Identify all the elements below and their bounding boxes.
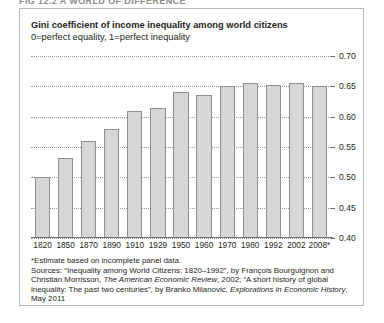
gridline-0.40 [31,238,331,239]
y-tick-label: 0.65 [339,81,356,91]
bar-2002 [289,56,304,238]
bar-rect [81,141,96,238]
bar-rect [312,86,327,238]
bar-1910 [127,56,142,238]
chart-subtitle: 0=perfect equality, 1=perfect inequality [31,31,190,43]
sources-line2-pre: Morrisson, [64,275,103,284]
figure-root: FIG 12.2 A WORLD OF DIFFERENCE Gini coef… [0,0,384,323]
x-tick-label: 1850 [56,240,74,250]
bar-rect [58,158,73,238]
y-tick-mark [331,208,335,209]
plot-area: 0.400.450.500.550.600.650.70 [31,56,331,238]
x-tick-label: 2008* [309,240,331,250]
x-tick-label: 1950 [172,240,190,250]
y-tick-label: 0.40 [339,233,356,243]
y-tick-mark [331,238,335,239]
y-tick-label: 0.70 [339,51,356,61]
bar-1970 [220,56,235,238]
journal-eeh: Explorations in Economic History [230,285,345,294]
x-tick-label: 1890 [103,240,121,250]
bar-rect [289,83,304,238]
bar-rect [104,129,119,238]
axis-baseline [31,237,333,238]
bar-rect [266,85,281,238]
bar-series [31,56,331,238]
y-tick-label: 0.60 [339,112,356,122]
y-tick-mark [331,147,335,148]
figure-caption: FIG 12.2 A WORLD OF DIFFERENCE [19,0,186,5]
x-tick-label: 1820 [33,240,51,250]
y-tick-label: 0.55 [339,142,356,152]
bar-1950 [173,56,188,238]
x-axis-labels: 1820185018701890191019291950196019701980… [31,240,331,252]
bar-1850 [58,56,73,238]
bar-1929 [150,56,165,238]
x-tick-label: 1980 [241,240,259,250]
bar-1960 [196,56,211,238]
journal-aer: The American Economic Review [103,275,217,284]
bar-1820 [35,56,50,238]
bar-rect [243,83,258,238]
y-tick-mark [331,117,335,118]
bar-rect [196,95,211,238]
footnote-estimate: *Estimate based on incomplete panel data… [31,256,353,266]
y-tick-mark [331,86,335,87]
x-tick-label: 2002 [287,240,305,250]
chart-notes: *Estimate based on incomplete panel data… [31,256,353,304]
x-tick-label: 1992 [264,240,282,250]
bar-1980 [243,56,258,238]
y-tick-label: 0.45 [339,203,356,213]
bar-rect [220,86,235,238]
sources-text: Sources: “Inequality among World Citizen… [31,266,353,304]
bar-rect [173,92,188,238]
y-tick-label: 0.50 [339,172,356,182]
bar-1890 [104,56,119,238]
x-tick-label: 1929 [149,240,167,250]
y-tick-mark [331,177,335,178]
bar-rect [35,177,50,238]
chart-panel: Gini coefficient of income inequality am… [19,8,364,306]
x-tick-label: 1870 [79,240,97,250]
bar-1992 [266,56,281,238]
bar-rect [150,108,165,238]
bar-rect [127,111,142,238]
sources-line3-pre: two centuries”, by Branko Milanovic, [102,285,231,294]
x-tick-label: 1970 [218,240,236,250]
y-tick-mark [331,56,335,57]
bar-2008* [312,56,327,238]
bar-1870 [81,56,96,238]
x-tick-label: 1910 [126,240,144,250]
chart-title: Gini coefficient of income inequality am… [31,19,288,31]
x-tick-label: 1960 [195,240,213,250]
